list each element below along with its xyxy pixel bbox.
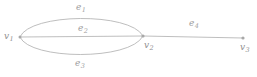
vertex-v2-dot [141,34,144,37]
graph-canvas [0,0,257,77]
vertex-label-v2: v2 [144,41,153,50]
edge-label-e1: e1 [76,3,85,12]
edge-e2-line [20,36,143,37]
edge-label-e4: e4 [189,19,198,28]
vertex-label-v3-subscript: 3 [245,46,249,54]
edge-label-e1-subscript: 1 [82,6,86,14]
vertex-label-v3: v3 [240,43,249,52]
edge-label-e4-name: e [189,18,194,28]
vertex-v1-dot [19,36,22,39]
edge-label-e3-subscript: 3 [81,62,85,70]
edge-e3-curve [20,36,143,55]
edge-label-e2-name: e [78,23,83,33]
vertex-v3-dot [241,36,244,39]
edge-label-e2-subscript: 2 [84,27,88,35]
vertex-label-v1: v1 [4,32,13,41]
multigraph-figure: e1 e2 e3 e4 v1 v2 v3 [0,0,257,77]
vertex-label-v1-subscript: 1 [9,35,13,43]
edge-e4-line [143,36,243,38]
edge-label-e2: e2 [78,24,87,33]
edge-label-e3-name: e [75,58,80,68]
edge-label-e1-name: e [76,2,81,12]
edge-label-e3: e3 [75,59,84,68]
edge-label-e4-subscript: 4 [195,22,199,30]
vertex-label-v2-subscript: 2 [149,44,153,52]
